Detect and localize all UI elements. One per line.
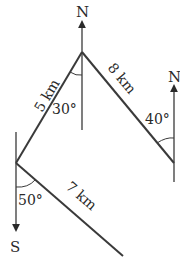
bearing-diagram: N N S 5 km 8 km 7 km 30° 40° 50°	[0, 0, 180, 260]
south-label-left: S	[10, 238, 20, 256]
north-label-top: N	[76, 3, 89, 21]
angle-arc-right	[157, 138, 174, 143]
distance-label-8km: 8 km	[105, 60, 140, 97]
angle-label-top: 30°	[52, 101, 77, 117]
leg-8km	[82, 52, 174, 163]
angle-arc-top	[70, 72, 82, 75]
leg-7km	[16, 163, 123, 256]
north-label-right: N	[168, 68, 180, 86]
angle-label-left: 50°	[18, 192, 43, 208]
angle-arc-left	[16, 180, 35, 187]
angle-label-right: 40°	[145, 111, 170, 127]
